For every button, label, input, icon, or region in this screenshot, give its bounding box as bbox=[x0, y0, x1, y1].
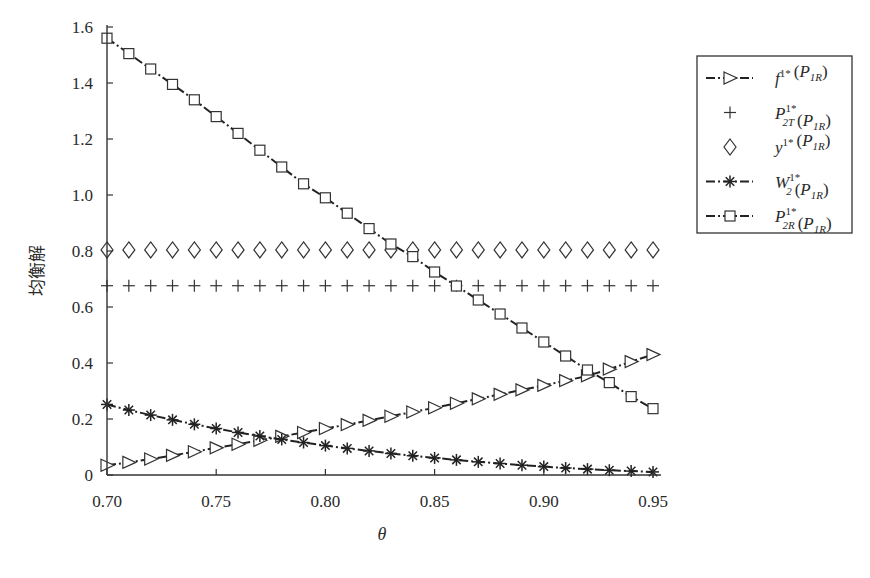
square-marker bbox=[495, 309, 505, 319]
diamond-marker bbox=[167, 242, 179, 258]
triangle-marker bbox=[516, 384, 529, 396]
asterisk-marker bbox=[385, 447, 397, 459]
triangle-marker bbox=[472, 393, 485, 405]
plus-marker bbox=[298, 280, 310, 292]
triangle-marker bbox=[385, 410, 398, 422]
square-marker bbox=[626, 392, 636, 402]
x-tick-label: 0.95 bbox=[638, 492, 668, 511]
diamond-marker bbox=[363, 242, 375, 258]
asterisk-marker bbox=[450, 454, 462, 466]
plot-area bbox=[101, 33, 660, 478]
square-marker bbox=[277, 162, 287, 172]
plus-marker bbox=[167, 280, 179, 292]
diamond-marker bbox=[538, 242, 550, 258]
square-marker bbox=[364, 224, 374, 234]
square-marker bbox=[124, 49, 134, 59]
triangle-marker bbox=[494, 388, 507, 400]
legend: f1*(P1R)P1*2T(P1R)y1*(P1R)W1*2(P1R)P1*2R… bbox=[697, 56, 852, 235]
diamond-marker bbox=[450, 242, 462, 258]
asterisk-marker bbox=[724, 176, 736, 188]
asterisk-marker bbox=[494, 458, 506, 470]
plus-marker bbox=[560, 280, 572, 292]
x-tick-label: 0.70 bbox=[92, 492, 122, 511]
y-tick-label: 1.0 bbox=[72, 186, 93, 205]
y-tick-label: 1.6 bbox=[72, 18, 93, 37]
y-tick-label: 0.8 bbox=[72, 242, 93, 261]
series-p2t bbox=[101, 280, 659, 292]
square-marker bbox=[255, 145, 265, 155]
triangle-marker bbox=[341, 419, 354, 431]
asterisk-marker bbox=[145, 409, 157, 421]
asterisk-marker bbox=[276, 433, 288, 445]
x-tick-label: 0.90 bbox=[529, 492, 559, 511]
triangle-marker bbox=[188, 446, 201, 458]
square-marker bbox=[451, 281, 461, 291]
asterisk-marker bbox=[167, 414, 179, 426]
square-marker bbox=[146, 64, 156, 74]
triangle-marker bbox=[407, 406, 420, 418]
square-marker bbox=[604, 378, 614, 388]
axes: 00.20.40.60.81.01.21.41.60.700.750.800.8… bbox=[72, 18, 668, 511]
square-marker bbox=[320, 193, 330, 203]
diamond-marker bbox=[123, 242, 135, 258]
series-p2r bbox=[102, 33, 658, 413]
square-marker bbox=[648, 404, 658, 414]
asterisk-marker bbox=[516, 459, 528, 471]
diamond-marker bbox=[145, 242, 157, 258]
y-tick-label: 0.6 bbox=[72, 298, 93, 317]
square-marker bbox=[168, 79, 178, 89]
asterisk-marker bbox=[254, 430, 266, 442]
diamond-marker bbox=[429, 242, 441, 258]
diamond-marker bbox=[472, 242, 484, 258]
plus-marker bbox=[188, 280, 200, 292]
triangle-marker bbox=[232, 438, 245, 450]
triangle-marker bbox=[450, 397, 463, 409]
diamond-marker bbox=[341, 242, 353, 258]
plus-marker bbox=[647, 280, 659, 292]
plus-marker bbox=[581, 280, 593, 292]
triangle-marker bbox=[319, 423, 332, 435]
square-marker bbox=[342, 208, 352, 218]
square-marker bbox=[211, 112, 221, 122]
plus-marker bbox=[494, 280, 506, 292]
x-axis-title: θ bbox=[378, 524, 387, 544]
diamond-marker bbox=[494, 242, 506, 258]
triangle-marker bbox=[210, 442, 223, 454]
plus-marker bbox=[625, 280, 637, 292]
diamond-marker bbox=[298, 242, 310, 258]
diamond-marker bbox=[276, 242, 288, 258]
square-marker bbox=[561, 351, 571, 361]
asterisk-marker bbox=[188, 418, 200, 430]
square-marker bbox=[408, 252, 418, 262]
x-tick-label: 0.75 bbox=[201, 492, 231, 511]
square-marker bbox=[725, 211, 735, 221]
square-marker bbox=[539, 337, 549, 347]
y-tick-label: 0.2 bbox=[72, 410, 93, 429]
square-marker bbox=[517, 323, 527, 333]
triangle-marker bbox=[538, 379, 551, 391]
y-axis-title: 均衡解 bbox=[27, 245, 47, 296]
plus-marker bbox=[429, 280, 441, 292]
square-marker bbox=[386, 239, 396, 249]
plus-marker bbox=[210, 280, 222, 292]
asterisk-marker bbox=[560, 462, 572, 474]
triangle-marker bbox=[145, 453, 158, 465]
triangle-marker bbox=[429, 402, 442, 414]
plus-marker bbox=[603, 280, 615, 292]
square-marker bbox=[299, 179, 309, 189]
y-tick-label: 1.2 bbox=[72, 130, 93, 149]
diamond-marker bbox=[581, 242, 593, 258]
asterisk-marker bbox=[298, 437, 310, 449]
diamond-marker bbox=[210, 242, 222, 258]
plus-marker bbox=[232, 280, 244, 292]
series-w2 bbox=[101, 398, 659, 477]
triangle-marker bbox=[647, 349, 660, 361]
asterisk-marker bbox=[341, 442, 353, 454]
y-tick-label: 0.4 bbox=[72, 354, 94, 373]
equilibrium-chart: 00.20.40.60.81.01.21.41.60.700.750.800.8… bbox=[0, 0, 870, 578]
diamond-marker bbox=[560, 242, 572, 258]
diamond-marker bbox=[625, 242, 637, 258]
square-marker bbox=[189, 95, 199, 105]
diamond-marker bbox=[232, 242, 244, 258]
asterisk-marker bbox=[581, 463, 593, 475]
